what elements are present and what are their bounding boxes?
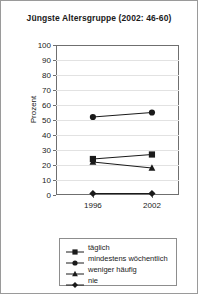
data-point-marker	[149, 109, 155, 115]
legend-item-2[interactable]: weniger häufig	[65, 265, 176, 276]
legend-marker-icon	[65, 243, 85, 253]
legend-marker-icon	[65, 254, 85, 264]
chart-legend: täglichmindestens wöchentlichweniger häu…	[59, 238, 177, 286]
series-layer	[56, 45, 179, 195]
x-tick-label: 2002	[143, 201, 161, 210]
y-tick-label: 100	[38, 41, 51, 50]
series-1	[90, 109, 155, 120]
y-axis-title: Prozent	[29, 82, 38, 138]
series-line	[93, 155, 152, 160]
series-line	[93, 113, 152, 118]
y-tick-label: 10	[42, 176, 51, 185]
y-tick-label: 60	[42, 101, 51, 110]
legend-marker-icon	[65, 265, 85, 275]
y-tick-label: 0	[47, 191, 51, 200]
data-point-marker	[89, 190, 96, 197]
series-3	[89, 190, 155, 197]
legend-item-0[interactable]: täglich	[65, 243, 176, 254]
legend-item-3[interactable]: nie	[65, 276, 176, 287]
y-tick-label: 90	[42, 56, 51, 65]
legend-label: weniger häufig	[88, 265, 137, 274]
legend-label: mindestens wöchentlich	[88, 254, 168, 263]
legend-marker-icon	[65, 276, 85, 286]
y-tick-label: 80	[42, 71, 51, 80]
y-tick-label: 30	[42, 146, 51, 155]
data-point-marker	[149, 151, 155, 157]
plot-wrapper: 0102030405060708090100 19962002	[56, 45, 179, 195]
legend-item-1[interactable]: mindestens wöchentlich	[65, 254, 176, 265]
data-point-marker	[72, 282, 78, 288]
chart-figure: Jüngste Altersgruppe (2002: 46-60) Proze…	[0, 0, 198, 294]
series-2	[89, 158, 155, 171]
legend-label: täglich	[88, 243, 110, 252]
y-tick-mark	[53, 195, 56, 196]
y-tick-label: 70	[42, 86, 51, 95]
chart-title: Jüngste Altersgruppe (2002: 46-60)	[1, 13, 197, 23]
y-tick-label: 20	[42, 161, 51, 170]
series-line	[93, 162, 152, 168]
x-tick-label: 1996	[84, 201, 102, 210]
data-point-marker	[148, 190, 155, 197]
y-tick-label: 50	[42, 116, 51, 125]
legend-label: nie	[88, 276, 98, 285]
data-point-marker	[90, 114, 96, 120]
series-0	[90, 151, 155, 162]
y-tick-label: 40	[42, 131, 51, 140]
